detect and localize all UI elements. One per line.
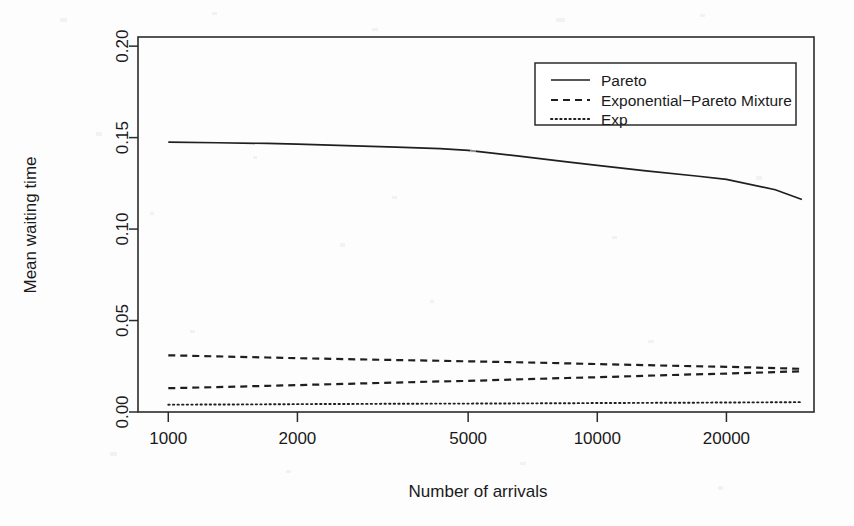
- x-tick-labels: 1000200050001000020000: [149, 429, 750, 448]
- y-tick-label-4: 0.20: [113, 30, 132, 63]
- y-tick-label-3: 0.15: [113, 121, 132, 154]
- x-axis-title: Number of arrivals: [409, 482, 548, 501]
- y-tick-label-1: 0.05: [113, 304, 132, 337]
- curve-dotted-3: [168, 402, 802, 405]
- x-tick-label-3: 10000: [574, 429, 621, 448]
- legend-label-pareto: Pareto: [601, 72, 647, 89]
- x-tick-label-0: 1000: [149, 429, 187, 448]
- mean-waiting-time-chart: 0.000.050.100.150.20 1000200050001000020…: [0, 0, 854, 526]
- curve-solid-0: [168, 142, 802, 199]
- legend: Pareto Exponential−Pareto Mixture Exp: [535, 63, 796, 128]
- legend-label-exp: Exp: [601, 111, 628, 128]
- curve-dashed-1: [168, 355, 802, 369]
- legend-label-mixture: Exponential−Pareto Mixture: [601, 92, 792, 109]
- y-axis-title: Mean waiting time: [21, 156, 40, 293]
- figure-canvas: 0.000.050.100.150.20 1000200050001000020…: [0, 0, 854, 526]
- data-curves: [168, 142, 802, 405]
- x-axis-ticks: [168, 412, 726, 422]
- y-tick-label-2: 0.10: [113, 213, 132, 246]
- y-tick-label-0: 0.00: [113, 395, 132, 428]
- x-tick-label-2: 5000: [449, 429, 487, 448]
- y-tick-labels: 0.000.050.100.150.20: [113, 30, 132, 429]
- curve-dashed-2: [168, 371, 802, 388]
- x-tick-label-4: 20000: [703, 429, 750, 448]
- x-tick-label-1: 2000: [279, 429, 317, 448]
